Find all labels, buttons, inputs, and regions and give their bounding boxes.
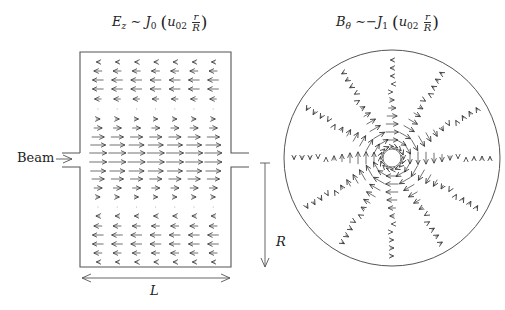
b-arrow-icon bbox=[366, 192, 375, 197]
b-arrow-icon bbox=[306, 108, 308, 111]
b-arrow-icon bbox=[306, 206, 308, 209]
b-arrow-icon bbox=[328, 194, 329, 195]
b-arrow-icon bbox=[456, 120, 457, 121]
cavity-circle bbox=[284, 50, 500, 266]
b-arrow-icon bbox=[449, 124, 450, 125]
b-arrow-icon bbox=[373, 144, 379, 154]
b-arrow-icon bbox=[411, 165, 418, 176]
b-arrow-icon bbox=[370, 184, 381, 190]
b-arrow-icon bbox=[469, 111, 471, 114]
b-arrow-icon bbox=[419, 207, 423, 209]
b-arrow-icon bbox=[440, 72, 443, 74]
b-arrow-icon bbox=[358, 215, 359, 216]
cavity-cross-section bbox=[284, 50, 500, 266]
field-dot bbox=[213, 207, 214, 208]
b-arrow-icon bbox=[462, 116, 464, 119]
b-arrow-icon bbox=[335, 124, 336, 125]
b-arrow-icon bbox=[342, 72, 345, 74]
b-arrow-icon bbox=[399, 177, 410, 184]
b-arrow-icon bbox=[341, 127, 343, 131]
b-arrow-icon bbox=[440, 242, 443, 244]
field-dot bbox=[136, 109, 137, 110]
b-arrow-icon bbox=[328, 120, 329, 121]
b-arrow-icon bbox=[402, 161, 403, 164]
field-diagram-svg bbox=[0, 0, 505, 310]
b-arrow-icon bbox=[370, 125, 381, 131]
b-arrow-icon bbox=[358, 101, 359, 102]
b-arrow-icon bbox=[426, 174, 431, 183]
btheta-field-arrows bbox=[294, 60, 490, 256]
b-arrow-icon bbox=[428, 222, 429, 223]
b-arrow-icon bbox=[386, 168, 389, 169]
field-dot bbox=[213, 109, 214, 110]
b-arrow-icon bbox=[418, 170, 424, 181]
b-arrow-icon bbox=[386, 147, 389, 148]
field-dot bbox=[98, 109, 99, 110]
b-arrow-icon bbox=[414, 199, 421, 203]
b-arrow-icon bbox=[366, 139, 373, 150]
b-arrow-icon bbox=[383, 149, 385, 151]
b-arrow-icon bbox=[373, 177, 384, 184]
diagram-canvas: Ez ∼ J0 (u02 rR) Bθ ∼−J1 (u02 rR) Beam L… bbox=[0, 0, 505, 310]
b-arrow-icon bbox=[462, 198, 464, 201]
b-arrow-icon bbox=[399, 149, 401, 151]
b-arrow-icon bbox=[341, 185, 343, 189]
b-arrow-icon bbox=[335, 190, 336, 191]
b-arrow-icon bbox=[359, 170, 365, 181]
b-arrow-icon bbox=[424, 215, 425, 216]
b-arrow-icon bbox=[313, 201, 315, 204]
b-arrow-icon bbox=[350, 228, 353, 230]
field-dot bbox=[117, 109, 118, 110]
b-arrow-icon bbox=[366, 165, 373, 176]
b-arrow-icon bbox=[408, 119, 417, 124]
b-arrow-icon bbox=[353, 174, 358, 183]
b-arrow-icon bbox=[432, 86, 435, 88]
b-arrow-icon bbox=[428, 94, 429, 95]
field-dot bbox=[98, 207, 99, 208]
b-arrow-icon bbox=[419, 107, 423, 109]
field-dot bbox=[194, 109, 195, 110]
b-arrow-icon bbox=[345, 235, 348, 237]
b-arrow-icon bbox=[441, 185, 443, 189]
b-arrow-icon bbox=[366, 119, 375, 124]
b-arrow-icon bbox=[347, 180, 351, 187]
beam-pipe-circle bbox=[383, 149, 401, 167]
b-arrow-icon bbox=[320, 116, 322, 119]
b-arrow-icon bbox=[476, 108, 478, 111]
b-arrow-icon bbox=[433, 180, 437, 187]
dimension-arrows bbox=[82, 163, 270, 278]
b-arrow-icon bbox=[396, 171, 406, 177]
b-arrow-icon bbox=[364, 113, 371, 117]
b-arrow-icon bbox=[378, 171, 388, 177]
b-arrow-icon bbox=[381, 152, 382, 155]
field-dot bbox=[174, 109, 175, 110]
b-arrow-icon bbox=[399, 165, 401, 167]
field-dot bbox=[155, 207, 156, 208]
b-arrow-icon bbox=[361, 107, 365, 109]
b-arrow-icon bbox=[402, 152, 403, 155]
b-arrow-icon bbox=[426, 132, 431, 141]
b-arrow-icon bbox=[342, 242, 345, 244]
b-arrow-icon bbox=[396, 139, 406, 145]
b-arrow-icon bbox=[364, 199, 371, 203]
b-arrow-icon bbox=[469, 201, 471, 204]
b-arrow-icon bbox=[347, 130, 351, 137]
b-arrow-icon bbox=[404, 184, 415, 190]
b-arrow-icon bbox=[353, 132, 358, 141]
b-arrow-icon bbox=[456, 194, 457, 195]
b-arrow-icon bbox=[383, 165, 385, 167]
b-arrow-icon bbox=[373, 162, 379, 172]
b-arrow-icon bbox=[354, 94, 355, 95]
b-arrow-icon bbox=[432, 228, 435, 230]
b-arrow-icon bbox=[411, 139, 418, 150]
b-arrow-icon bbox=[378, 139, 388, 145]
b-arrow-icon bbox=[414, 113, 421, 117]
b-arrow-icon bbox=[449, 190, 450, 191]
b-arrow-icon bbox=[354, 222, 355, 223]
b-arrow-icon bbox=[476, 206, 478, 209]
b-arrow-icon bbox=[404, 125, 415, 131]
b-arrow-icon bbox=[435, 235, 438, 237]
b-arrow-icon bbox=[345, 79, 348, 81]
b-arrow-icon bbox=[405, 144, 411, 154]
b-arrow-icon bbox=[424, 101, 425, 102]
